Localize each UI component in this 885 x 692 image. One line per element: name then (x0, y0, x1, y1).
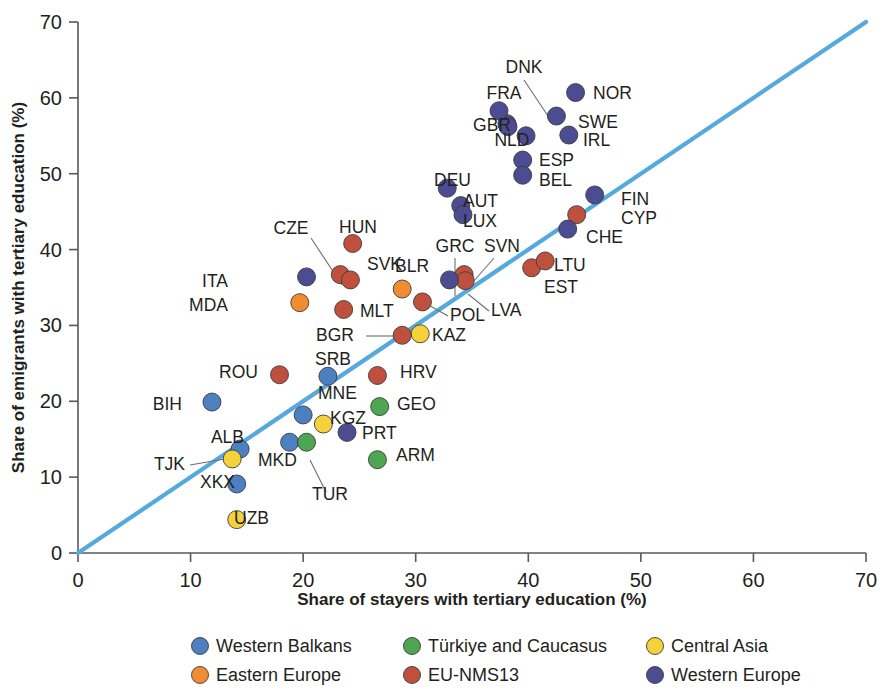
point-label-aut: AUT (463, 191, 498, 211)
y-tick-label: 60 (40, 87, 62, 109)
legend-item-t-rkiye-and-caucasus[interactable]: Türkiye and Caucasus (404, 636, 608, 656)
point-label-uzb: UZB (234, 508, 269, 528)
y-tick-label: 20 (40, 390, 62, 412)
legend-item-western-balkans[interactable]: Western Balkans (192, 636, 352, 656)
x-tick-label: 50 (630, 569, 652, 591)
point-label-est: EST (544, 277, 578, 297)
legend-label: Western Europe (671, 665, 801, 685)
point-label-esp: ESP (539, 150, 574, 170)
data-point-mkd[interactable] (281, 433, 299, 451)
legend-label: EU-NMS13 (428, 665, 519, 685)
point-label-rou: ROU (219, 362, 258, 382)
point-label-tur: TUR (312, 484, 348, 504)
data-point-geo[interactable] (371, 398, 389, 416)
point-label-blr: BLR (395, 256, 429, 276)
point-label-xkx: XKX (200, 472, 235, 492)
legend-swatch (192, 667, 209, 684)
y-tick-label: 70 (40, 11, 62, 33)
point-label-lva: LVA (491, 300, 522, 320)
legend-label: Türkiye and Caucasus (428, 636, 607, 656)
x-tick-label: 10 (179, 569, 201, 591)
data-point-hrv[interactable] (368, 366, 386, 384)
point-label-che: CHE (586, 227, 623, 247)
point-label-alb: ALB (211, 427, 244, 447)
point-label-mne: MNE (318, 383, 357, 403)
data-point-svk[interactable] (341, 271, 359, 289)
y-tick-label: 40 (40, 239, 62, 261)
point-label-irl: IRL (583, 130, 611, 150)
y-tick-label: 30 (40, 314, 62, 336)
point-label-mlt: MLT (360, 301, 394, 321)
data-point-rou[interactable] (271, 366, 289, 384)
point-label-geo: GEO (397, 394, 436, 414)
data-point-arm[interactable] (368, 451, 386, 469)
point-label-prt: PRT (362, 423, 397, 443)
y-tick-label: 50 (40, 163, 62, 185)
x-axis-title: Share of stayers with tertiary education… (297, 590, 647, 609)
point-label-bih: BIH (153, 394, 182, 414)
legend-swatch (404, 667, 421, 684)
data-point-che[interactable] (559, 220, 577, 238)
data-point-ita[interactable] (298, 268, 316, 286)
data-point-fin[interactable] (586, 186, 604, 204)
x-tick-label: 20 (292, 569, 314, 591)
x-tick-label: 60 (742, 569, 764, 591)
y-tick-label: 10 (40, 466, 62, 488)
data-point-tjk[interactable] (223, 450, 241, 468)
data-point-ltu[interactable] (536, 252, 554, 270)
point-label-swe: SWE (578, 112, 618, 132)
chart-legend: Western BalkansTürkiye and CaucasusCentr… (192, 636, 801, 685)
data-point-nor[interactable] (567, 84, 585, 102)
point-label-fra: FRA (487, 83, 522, 103)
point-label-fin: FIN (621, 189, 649, 209)
point-label-cyp: CYP (621, 208, 657, 228)
y-tick-label: 0 (51, 542, 62, 564)
point-label-pol: POL (450, 305, 485, 325)
point-label-tjk: TJK (154, 454, 185, 474)
data-point-mda[interactable] (291, 294, 309, 312)
legend-swatch (647, 638, 664, 655)
data-point-bih[interactable] (203, 393, 221, 411)
point-label-lux: LUX (463, 211, 497, 231)
data-point-lva[interactable] (456, 272, 474, 290)
data-point-grc[interactable] (440, 271, 458, 289)
data-point-mne[interactable] (294, 406, 312, 424)
point-label-hrv: HRV (400, 362, 437, 382)
point-label-ita: ITA (202, 271, 228, 291)
point-label-arm: ARM (396, 445, 435, 465)
point-label-dnk: DNK (506, 57, 543, 77)
x-tick-label: 0 (72, 569, 83, 591)
point-label-kgz: KGZ (330, 408, 366, 428)
data-point-bel[interactable] (514, 166, 532, 184)
scatter-chart-figure: 010203040506070010203040506070 DNKFRANOR… (0, 0, 885, 692)
parity-line (78, 22, 866, 553)
x-tick-label: 70 (855, 569, 877, 591)
data-point-irl[interactable] (560, 126, 578, 144)
data-point-blr[interactable] (393, 280, 411, 298)
legend-label: Eastern Europe (216, 665, 341, 685)
point-label-kaz: KAZ (432, 325, 466, 345)
point-label-mkd: MKD (258, 450, 297, 470)
point-label-srb: SRB (315, 349, 351, 369)
x-tick-label: 40 (517, 569, 539, 591)
data-point-mlt[interactable] (335, 300, 353, 318)
legend-item-eastern-europe[interactable]: Eastern Europe (192, 665, 342, 685)
point-label-nld: NLD (494, 130, 529, 150)
legend-label: Central Asia (671, 636, 769, 656)
y-axis-title: Share of emigrants with tertiary educati… (9, 102, 28, 473)
data-point-bgr[interactable] (393, 326, 411, 344)
legend-item-eu-nms13[interactable]: EU-NMS13 (404, 665, 520, 685)
point-label-mda: MDA (189, 295, 228, 315)
data-point-pol[interactable] (413, 293, 431, 311)
data-point-hun[interactable] (344, 235, 362, 253)
legend-item-western-europe[interactable]: Western Europe (647, 665, 801, 685)
legend-item-central-asia[interactable]: Central Asia (647, 636, 770, 656)
legend-swatch (404, 638, 421, 655)
data-point-tur[interactable] (298, 433, 316, 451)
x-tick-label: 30 (405, 569, 427, 591)
point-label-cze: CZE (274, 218, 309, 238)
data-point-kaz[interactable] (411, 325, 429, 343)
data-point-swe[interactable] (547, 107, 565, 125)
point-label-nor: NOR (593, 83, 632, 103)
chart-canvas: 010203040506070010203040506070 DNKFRANOR… (0, 0, 885, 692)
